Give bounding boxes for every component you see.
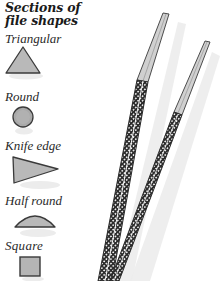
files-illustration <box>0 0 224 281</box>
